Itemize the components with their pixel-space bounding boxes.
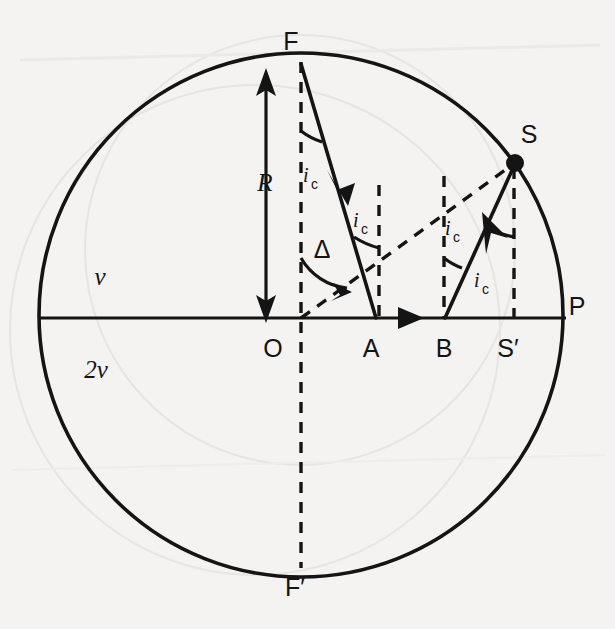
figure-root: F F′ O A B S′ S P R ν 2ν Δ i c i c i c i… <box>0 0 615 629</box>
label-S-prime: S′ <box>497 334 519 362</box>
label-radius-R: R <box>256 169 272 196</box>
label-ic-at-B-sub: c <box>453 229 460 245</box>
label-ic-at-A-sub: c <box>361 221 368 237</box>
label-velocity-lower: 2ν <box>84 356 109 383</box>
label-ic-at-F-sub: c <box>311 176 318 192</box>
label-ic-at-A-base: i <box>353 209 359 231</box>
label-delta: Δ <box>314 235 331 263</box>
label-ic-at-S-sub: c <box>482 281 489 297</box>
station-marker-S <box>506 154 524 172</box>
label-F-prime: F′ <box>285 573 305 601</box>
label-B: B <box>436 334 453 362</box>
label-O: O <box>263 334 282 362</box>
label-P: P <box>569 292 586 320</box>
label-ic-at-S-base: i <box>474 269 480 291</box>
label-ic-at-B-base: i <box>445 217 451 239</box>
label-velocity-upper: ν <box>94 263 106 290</box>
ray-path-diagram: F F′ O A B S′ S P R ν 2ν Δ i c i c i c i… <box>0 0 615 629</box>
label-A: A <box>363 334 380 362</box>
label-S: S <box>521 120 538 148</box>
label-ic-at-F-base: i <box>303 164 309 186</box>
label-F: F <box>283 27 298 55</box>
